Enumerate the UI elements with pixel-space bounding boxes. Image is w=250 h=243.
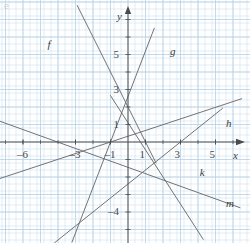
x-tick-label--1: –1 xyxy=(105,149,116,160)
line-label-h: h xyxy=(226,118,232,129)
corner-mark: e xyxy=(4,0,9,11)
line-label-f: f xyxy=(48,39,51,50)
graph-figure: –6–3–1135135–4 fghkm x y e xyxy=(0,0,250,243)
y-tick-label--4: –4 xyxy=(108,206,119,217)
y-tick-label-5: 5 xyxy=(114,49,120,60)
y-axis-arrow xyxy=(125,6,131,14)
y-axis-label: y xyxy=(117,11,122,22)
x-tick-label--6: –6 xyxy=(17,149,28,160)
x-tick-label--3: –3 xyxy=(70,149,81,160)
x-tick-label-3: 3 xyxy=(175,149,181,160)
x-axis-arrow xyxy=(236,139,245,145)
x-tick-label-5: 5 xyxy=(210,149,216,160)
y-tick-label-1: 1 xyxy=(114,119,120,130)
axes-layer xyxy=(0,0,250,243)
y-tick-label-3: 3 xyxy=(114,84,120,95)
line-label-m: m xyxy=(226,198,234,209)
line-label-k: k xyxy=(200,167,205,178)
x-tick-label-1: 1 xyxy=(140,149,146,160)
line-label-g: g xyxy=(170,46,176,57)
x-axis-label: x xyxy=(233,150,238,161)
